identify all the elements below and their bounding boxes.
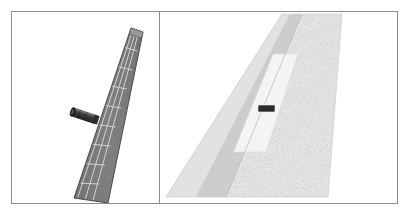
panel-right-fine-mesh [160, 12, 397, 203]
engine-nacelle-pod [69, 107, 100, 125]
left-wing-rendering [12, 12, 159, 203]
right-wing-rendering [160, 12, 397, 203]
figure-root [0, 0, 410, 216]
panel-left-coarse-mesh [12, 12, 159, 203]
nacelle-location-marker [258, 105, 275, 112]
